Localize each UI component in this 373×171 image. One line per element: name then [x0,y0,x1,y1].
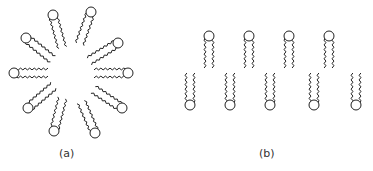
lipid-molecule [76,7,96,46]
lipid-tail-icon [212,38,214,68]
lipid-tail-icon [359,73,361,103]
lipid-head-icon [48,10,58,20]
lipid-tail-icon [324,38,326,68]
lipid-molecule [324,31,334,68]
lipid-tail-icon [57,16,67,47]
lipid-tail-icon [292,38,294,68]
lipid-head-icon [324,31,334,41]
lipid-tail-icon [87,41,114,58]
lipid-tail-icon [95,86,122,103]
lipid-tail-icon [25,42,50,62]
lipid-molecule [185,73,195,110]
lipid-molecule [244,31,254,68]
lipid-tail-icon [204,38,206,68]
lipid-tail-icon [49,18,59,49]
lipid-head-icon [244,31,254,41]
lipid-tail-icon [32,88,56,109]
lipid-tail-icon [273,73,275,103]
lipid-head-icon [225,100,235,110]
lipid-tail-icon [317,73,319,103]
lipid-tail-icon [244,38,246,68]
lipid-molecule [87,38,123,65]
lipid-tail-icon [91,93,118,110]
lipid-molecule [204,31,214,68]
lipid-molecule [225,73,235,110]
lipid-molecule [284,31,294,68]
lipid-tail-icon [252,38,254,68]
lipid-molecule [309,73,319,110]
lipid-head-icon [113,38,123,48]
lipid-tail-icon [58,99,66,130]
lipid-molecule [91,86,127,113]
micelle-diagram [9,7,133,138]
lipid-tail-icon [351,73,353,103]
lipid-head-icon [284,31,294,41]
lipid-molecule [77,101,100,138]
lipid-tail-icon [94,76,126,78]
lipid-tail-icon [309,73,311,103]
lipid-tail-icon [92,47,119,64]
lipid-head-icon [185,100,195,110]
lipid-tail-icon [94,68,126,70]
lipid-molecule [21,33,55,62]
lipid-tail-icon [233,73,235,103]
lipid-tail-icon [27,82,51,103]
lipid-head-icon [309,100,319,110]
lipid-tail-icon [193,73,195,103]
lipid-molecule [49,97,67,136]
panel-label-a: (a) [59,147,74,160]
lipid-molecule [265,73,275,110]
lipid-molecule [351,73,361,110]
lipid-tail-icon [185,73,187,103]
lipid-head-icon [123,68,133,78]
lipid-molecule [94,68,133,78]
lipid-head-icon [9,68,19,78]
lipid-head-icon [21,33,31,43]
lipid-tail-icon [51,97,59,128]
lipid-tail-icon [284,38,286,68]
lipid-tail-icon [83,15,94,45]
lipid-diagram [0,0,373,171]
lipid-molecule [48,10,67,49]
lipid-head-icon [86,7,96,17]
lipid-head-icon [23,103,33,113]
lipid-tail-icon [16,76,48,78]
lipid-tail-icon [225,73,227,103]
lipid-tail-icon [265,73,267,103]
lipid-head-icon [49,126,59,136]
lipid-head-icon [90,128,100,138]
lipid-head-icon [351,100,361,110]
lipid-head-icon [204,31,214,41]
lipid-tail-icon [16,68,48,70]
lipid-molecule [23,82,56,113]
lipid-head-icon [117,103,127,113]
lipid-head-icon [265,100,275,110]
bilayer-diagram [185,31,361,110]
lipid-tail-icon [30,36,55,55]
lipid-tail-icon [332,38,334,68]
lipid-molecule [9,68,48,78]
panel-label-b: (b) [259,147,275,160]
